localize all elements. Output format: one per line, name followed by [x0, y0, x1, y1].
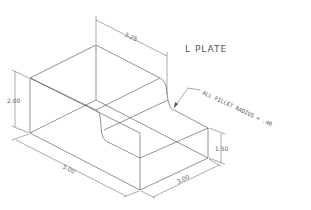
dim-label-depth: 3.00 — [175, 173, 190, 185]
extension-line — [12, 126, 29, 133]
drawing-title: L PLATE — [185, 44, 227, 54]
edge — [96, 100, 208, 158]
extension-line — [209, 128, 225, 134]
fillet-note: ALL FILLET RADIUS = .40 — [202, 89, 274, 127]
edge — [104, 100, 168, 130]
extension-line — [12, 134, 29, 140]
edge — [140, 128, 208, 158]
leader-line — [174, 88, 200, 108]
dim-label-height: 2.00 — [7, 97, 21, 104]
edge — [140, 158, 208, 190]
l-plate-drawing: 3.25 2.00 5.00 1.50 3.00 ALL FILLET RADI… — [0, 0, 311, 210]
part-geometry — [30, 45, 208, 190]
fillet-curve-front — [96, 110, 140, 158]
fillet-leader: ALL FILLET RADIUS = .40 — [174, 88, 273, 127]
extension-line — [141, 191, 155, 198]
extension-line — [209, 158, 225, 164]
dim-label-length: 5.00 — [62, 163, 77, 175]
extension-line — [12, 70, 29, 78]
edge — [30, 133, 140, 190]
edge — [30, 100, 96, 133]
extension-line — [124, 191, 139, 197]
dim-label-step-height: 1.50 — [215, 145, 229, 152]
edge — [174, 110, 208, 128]
